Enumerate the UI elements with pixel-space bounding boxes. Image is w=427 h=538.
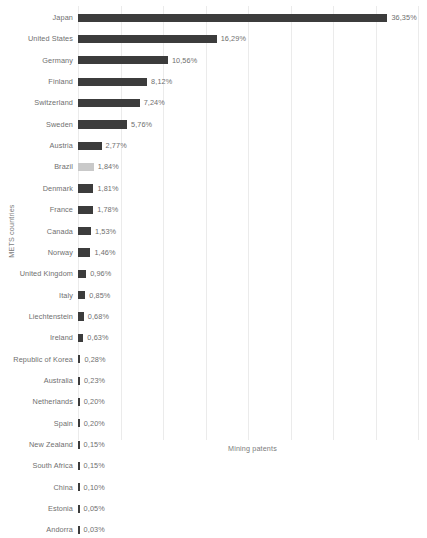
bar — [78, 206, 93, 214]
value-label: 0,20% — [84, 413, 105, 434]
category-label: Andorra — [0, 519, 73, 538]
bar-row: Liechtenstein0,68% — [0, 306, 427, 327]
category-label: Japan — [0, 7, 73, 28]
bar — [78, 462, 80, 470]
bar-row: Canada1,53% — [0, 221, 427, 242]
category-label: Switzerland — [0, 92, 73, 113]
bar-row: Netherlands0,20% — [0, 391, 427, 412]
bar-row: Italy0,85% — [0, 285, 427, 306]
category-label: Estonia — [0, 498, 73, 519]
bar — [78, 377, 80, 385]
value-label: 0,15% — [84, 455, 105, 476]
bar-row: Norway1,46% — [0, 242, 427, 263]
bar — [78, 120, 127, 128]
value-label: 1,84% — [98, 156, 119, 177]
category-label: China — [0, 477, 73, 498]
bar — [78, 355, 80, 363]
bar — [78, 419, 80, 427]
bar — [78, 78, 147, 86]
bar — [78, 142, 102, 150]
category-label: Spain — [0, 413, 73, 434]
bar-row: Andorra0,03% — [0, 519, 427, 538]
value-label: 1,81% — [97, 178, 118, 199]
bar — [78, 14, 387, 22]
category-label: South Africa — [0, 455, 73, 476]
bar — [78, 248, 90, 256]
value-label: 1,78% — [97, 199, 118, 220]
category-label: New Zealand — [0, 434, 73, 455]
bar-row: Sweden5,76% — [0, 114, 427, 135]
bar-row: Republic of Korea0,28% — [0, 349, 427, 370]
value-label: 0,10% — [84, 477, 105, 498]
category-label: Canada — [0, 221, 73, 242]
category-label: Liechtenstein — [0, 306, 73, 327]
category-label: United Kingdom — [0, 263, 73, 284]
value-label: 0,68% — [88, 306, 109, 327]
bar-row: Germany10,56% — [0, 50, 427, 71]
bar-row: France1,78% — [0, 199, 427, 220]
category-label: Brazil — [0, 156, 73, 177]
category-label: Norway — [0, 242, 73, 263]
value-label: 0,63% — [87, 327, 108, 348]
bar-row: Japan36,35% — [0, 7, 427, 28]
category-label: Italy — [0, 285, 73, 306]
bar-row: Ireland0,63% — [0, 327, 427, 348]
category-label: Germany — [0, 50, 73, 71]
value-label: 0,96% — [90, 263, 111, 284]
value-label: 0,85% — [89, 285, 110, 306]
category-label: United States — [0, 28, 73, 49]
bar — [78, 163, 94, 171]
bar — [78, 505, 80, 513]
bar-row: Austria2,77% — [0, 135, 427, 156]
bar-row: United Kingdom0,96% — [0, 263, 427, 284]
bar — [78, 184, 93, 192]
value-label: 0,05% — [84, 498, 105, 519]
value-label: 0,23% — [84, 370, 105, 391]
bar-row: Brazil1,84% — [0, 156, 427, 177]
category-label: France — [0, 199, 73, 220]
value-label: 0,20% — [84, 391, 105, 412]
value-label: 10,56% — [172, 50, 197, 71]
value-label: 2,77% — [106, 135, 127, 156]
bar — [78, 99, 140, 107]
value-label: 0,28% — [84, 349, 105, 370]
bar — [78, 270, 86, 278]
value-label: 36,35% — [391, 7, 416, 28]
bar-row: Spain0,20% — [0, 413, 427, 434]
x-axis-title: Mining patents — [78, 444, 427, 453]
bar-row: Denmark1,81% — [0, 178, 427, 199]
bar-row: South Africa0,15% — [0, 455, 427, 476]
category-label: Ireland — [0, 327, 73, 348]
value-label: 0,03% — [84, 519, 105, 538]
category-label: Denmark — [0, 178, 73, 199]
value-label: 1,46% — [94, 242, 115, 263]
category-label: Netherlands — [0, 391, 73, 412]
category-label: Finland — [0, 71, 73, 92]
bar-row: Switzerland7,24% — [0, 92, 427, 113]
bar-row: Estonia0,05% — [0, 498, 427, 519]
category-label: Australia — [0, 370, 73, 391]
bar-row: Australia0,23% — [0, 370, 427, 391]
category-label: Austria — [0, 135, 73, 156]
bar — [78, 398, 80, 406]
value-label: 1,53% — [95, 221, 116, 242]
bar-row: China0,10% — [0, 477, 427, 498]
value-label: 16,29% — [221, 28, 246, 49]
bar — [78, 35, 217, 43]
value-label: 5,76% — [131, 114, 152, 135]
bar — [78, 291, 85, 299]
value-label: 8,12% — [151, 71, 172, 92]
category-label: Republic of Korea — [0, 349, 73, 370]
bar — [78, 312, 84, 320]
bar — [78, 483, 80, 491]
bar — [78, 526, 80, 534]
bar — [78, 227, 91, 235]
bar — [78, 334, 83, 342]
category-label: Sweden — [0, 114, 73, 135]
bar-row: Finland8,12% — [0, 71, 427, 92]
bar — [78, 56, 168, 64]
bar-row: United States16,29% — [0, 28, 427, 49]
value-label: 7,24% — [144, 92, 165, 113]
